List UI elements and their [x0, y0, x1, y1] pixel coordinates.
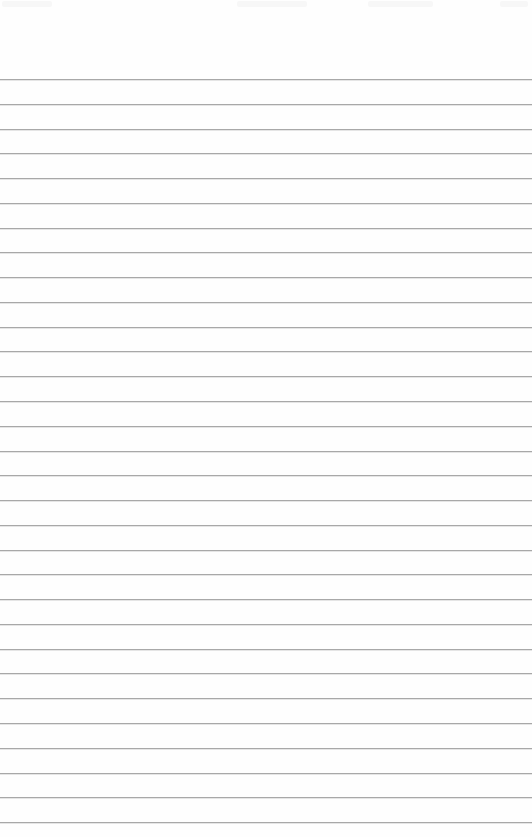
faint-bleed-through-mark [368, 1, 433, 7]
ruled-line [0, 550, 532, 551]
ruled-line [0, 525, 532, 526]
ruled-line [0, 723, 532, 724]
ruled-line [0, 748, 532, 749]
ruled-line [0, 104, 532, 105]
ruled-line [0, 599, 532, 600]
ruled-line [0, 351, 532, 352]
ruled-line [0, 624, 532, 625]
ruled-line [0, 673, 532, 674]
faint-bleed-through-mark [237, 1, 307, 7]
ruled-line [0, 574, 532, 575]
ruled-line [0, 773, 532, 774]
ruled-line [0, 178, 532, 179]
ruled-line [0, 252, 532, 253]
ruled-line [0, 698, 532, 699]
ruled-line [0, 797, 532, 798]
ruled-line [0, 401, 532, 402]
ruled-line [0, 228, 532, 229]
ruled-line [0, 203, 532, 204]
ruled-line [0, 327, 532, 328]
ruled-line [0, 475, 532, 476]
ruled-paper-page [0, 0, 532, 837]
ruled-line [0, 302, 532, 303]
ruled-line [0, 129, 532, 130]
ruled-line [0, 451, 532, 452]
ruled-line [0, 426, 532, 427]
faint-bleed-through-mark [500, 1, 528, 7]
ruled-line [0, 277, 532, 278]
ruled-line [0, 822, 532, 823]
ruled-line [0, 376, 532, 377]
ruled-line [0, 153, 532, 154]
ruled-line [0, 649, 532, 650]
ruled-line [0, 79, 532, 80]
ruled-line [0, 500, 532, 501]
faint-bleed-through-mark [2, 1, 52, 7]
